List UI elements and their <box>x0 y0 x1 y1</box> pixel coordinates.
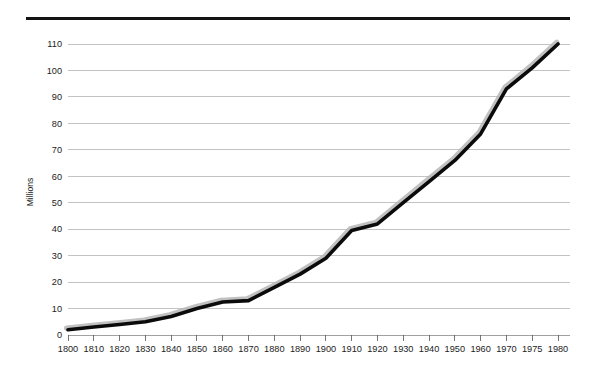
y-tick-label-80: 80 <box>52 119 62 129</box>
y-tick-label-30: 30 <box>52 251 62 261</box>
x-tick-label-1930: 1930 <box>393 344 413 354</box>
x-tick-label-1910: 1910 <box>341 344 361 354</box>
x-tick-label-1860: 1860 <box>213 344 233 354</box>
y-tick-label-50: 50 <box>52 198 62 208</box>
y-tick-label-90: 90 <box>52 92 62 102</box>
y-tick-label-10: 10 <box>52 304 62 314</box>
x-tick-label-1810: 1810 <box>84 344 104 354</box>
y-tick-label-40: 40 <box>52 224 62 234</box>
x-tick-label-1900: 1900 <box>316 344 336 354</box>
y-tick-label-60: 60 <box>52 172 62 182</box>
x-tick-label-1980: 1980 <box>548 344 568 354</box>
y-tick-label-0: 0 <box>57 330 62 340</box>
x-tick-label-1970: 1970 <box>496 344 516 354</box>
y-tick-label-100: 100 <box>47 66 62 76</box>
x-tick-label-1830: 1830 <box>135 344 155 354</box>
x-tick-label-1920: 1920 <box>367 344 387 354</box>
y-tick-label-70: 70 <box>52 145 62 155</box>
x-tick-label-1840: 1840 <box>161 344 181 354</box>
chart-background <box>0 0 596 370</box>
y-tick-label-20: 20 <box>52 277 62 287</box>
x-tick-label-1820: 1820 <box>109 344 129 354</box>
y-axis-title: Millions <box>25 178 35 207</box>
x-tick-label-1870: 1870 <box>238 344 258 354</box>
x-tick-label-1880: 1880 <box>264 344 284 354</box>
x-tick-label-1890: 1890 <box>290 344 310 354</box>
x-tick-label-1800: 1800 <box>58 344 78 354</box>
x-tick-label-1950: 1950 <box>445 344 465 354</box>
x-tick-label-1940: 1940 <box>419 344 439 354</box>
x-tick-label-1850: 1850 <box>187 344 207 354</box>
line-chart-canvas: 0102030405060708090100110 18001810182018… <box>0 0 596 370</box>
chart-figure: 0102030405060708090100110 18001810182018… <box>0 0 596 370</box>
x-tick-label-1960: 1960 <box>470 344 490 354</box>
x-tick-label-1975: 1975 <box>522 344 542 354</box>
y-tick-label-110: 110 <box>47 39 62 49</box>
